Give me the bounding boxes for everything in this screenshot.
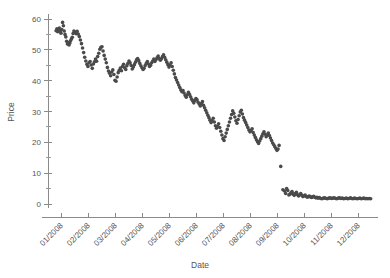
data-point (61, 21, 65, 25)
data-point (78, 35, 82, 39)
data-point (88, 60, 92, 64)
data-point (124, 68, 128, 72)
data-point (286, 189, 290, 193)
data-point (81, 46, 85, 50)
data-point (90, 67, 94, 71)
data-point (97, 51, 101, 55)
data-point (284, 192, 288, 196)
data-point (59, 31, 63, 35)
data-point (106, 66, 110, 70)
data-point (213, 120, 217, 124)
data-point (170, 65, 174, 69)
data-point (236, 118, 240, 122)
data-point (86, 65, 90, 69)
data-points (54, 21, 372, 201)
chart-svg: 0102030405060 01/200802/200803/200804/20… (0, 0, 390, 278)
data-point (211, 116, 215, 120)
data-point (222, 139, 226, 143)
data-point (80, 42, 84, 46)
data-point (277, 144, 281, 148)
y-tick-label: 30 (32, 108, 41, 117)
y-tick-label: 0 (37, 200, 42, 209)
scatter-chart: 0102030405060 01/200802/200803/200804/20… (0, 0, 390, 278)
data-point (171, 68, 175, 72)
y-tick-label: 50 (32, 46, 41, 55)
x-tick-label: 04/2008 (119, 221, 146, 248)
x-axis-title: Date (191, 260, 209, 270)
x-tick-label: 11/2008 (309, 221, 336, 248)
data-point (227, 124, 231, 128)
data-point (95, 59, 99, 63)
data-point (279, 165, 283, 169)
data-point (64, 35, 68, 39)
data-point (122, 63, 126, 67)
x-tick-label: 12/2008 (335, 221, 362, 248)
data-point (219, 129, 223, 133)
data-point (217, 122, 221, 126)
data-point (237, 114, 241, 118)
y-tick-label: 60 (32, 15, 41, 24)
y-axis-title: Price (6, 102, 16, 122)
data-point (101, 49, 105, 53)
y-tick-label: 10 (32, 169, 41, 178)
data-point (120, 69, 124, 73)
data-point (241, 112, 245, 116)
data-point (105, 61, 109, 65)
x-tick-label: 10/2008 (281, 221, 308, 248)
data-point (228, 120, 232, 124)
x-tick-label: 07/2008 (200, 221, 227, 248)
data-point (111, 68, 115, 72)
y-tick-label: 40 (32, 77, 41, 86)
x-tick-label: 05/2008 (146, 221, 173, 248)
data-point (235, 121, 239, 125)
data-point (96, 55, 100, 59)
y-tick-label: 20 (32, 138, 41, 147)
data-point (225, 128, 229, 132)
y-axis: 0102030405060 (32, 14, 52, 209)
data-point (224, 131, 228, 135)
data-point (62, 29, 66, 33)
data-point (220, 133, 224, 137)
x-axis: 01/200802/200803/200804/200805/200806/20… (38, 213, 378, 248)
data-point (369, 197, 373, 201)
data-point (276, 147, 280, 151)
data-point (201, 100, 205, 104)
data-point (83, 55, 87, 59)
data-point (112, 73, 116, 77)
data-point (229, 116, 233, 120)
data-point (82, 51, 86, 55)
data-point (100, 45, 104, 49)
x-tick-label: 09/2008 (254, 221, 281, 248)
data-point (169, 61, 173, 65)
data-point (84, 59, 88, 63)
data-point (102, 54, 106, 58)
data-point (79, 38, 83, 42)
data-point (115, 75, 119, 79)
data-point (218, 126, 222, 130)
data-point (109, 74, 113, 78)
data-point (103, 57, 107, 61)
data-point (62, 24, 66, 28)
data-point (232, 112, 236, 116)
data-point (114, 79, 118, 83)
x-tick-label: 06/2008 (173, 221, 200, 248)
data-point (223, 135, 227, 139)
data-point (250, 127, 254, 131)
x-tick-label: 08/2008 (227, 221, 254, 248)
data-point (71, 35, 75, 39)
data-point (173, 72, 177, 76)
x-tick-label: 02/2008 (65, 221, 92, 248)
x-tick-label: 03/2008 (92, 221, 119, 248)
x-tick-label: 01/2008 (38, 221, 65, 248)
data-point (233, 115, 237, 119)
data-point (240, 108, 244, 112)
